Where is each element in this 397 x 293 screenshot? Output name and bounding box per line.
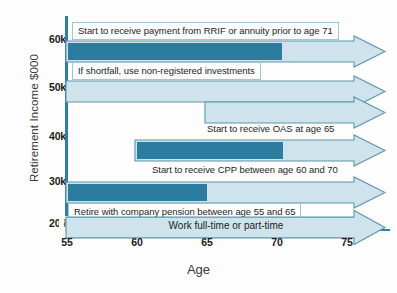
- fill-bar-company-pension: [68, 184, 207, 201]
- y-tick-30k: 30k: [6, 175, 66, 187]
- band-non-registered: [66, 80, 386, 103]
- arrow-shape-non-registered: [66, 80, 386, 103]
- callout-rrif: Start to receive payment from RRIF or an…: [72, 22, 339, 40]
- y-tick-50k: 50k: [6, 81, 66, 93]
- arrow-shape-oas: [205, 101, 386, 124]
- band-company-pension: [66, 181, 386, 204]
- callout-oas: Start to receive OAS at age 65: [207, 123, 334, 135]
- x-tick-70: 70: [257, 236, 297, 248]
- x-tick-75: 75: [327, 236, 367, 248]
- fill-bar-rrif: [68, 43, 282, 60]
- x-axis-title: Age: [0, 262, 397, 277]
- y-tick-60k: 60k: [6, 33, 66, 45]
- band-cpp: [135, 139, 386, 162]
- band-rrif: [66, 40, 386, 63]
- callout-cpp: Start to receive CPP between age 60 and …: [152, 164, 338, 176]
- y-tick-20k: 20k: [6, 217, 66, 229]
- x-tick-55: 55: [47, 236, 87, 248]
- fill-bar-cpp: [137, 142, 283, 159]
- y-axis-title: Retirement Income $000: [28, 18, 40, 218]
- callout-non-registered: If shortfall, use non-registered investm…: [72, 62, 261, 80]
- band-oas: [205, 101, 386, 124]
- x-tick-65: 65: [187, 236, 227, 248]
- x-tick-60: 60: [117, 236, 157, 248]
- callout-work: Work full-time or part-time: [66, 220, 386, 231]
- retirement-income-timeline-chart: Retirement Income $000 60k 50k 40k 30k 2…: [0, 0, 397, 293]
- y-tick-40k: 40k: [6, 130, 66, 142]
